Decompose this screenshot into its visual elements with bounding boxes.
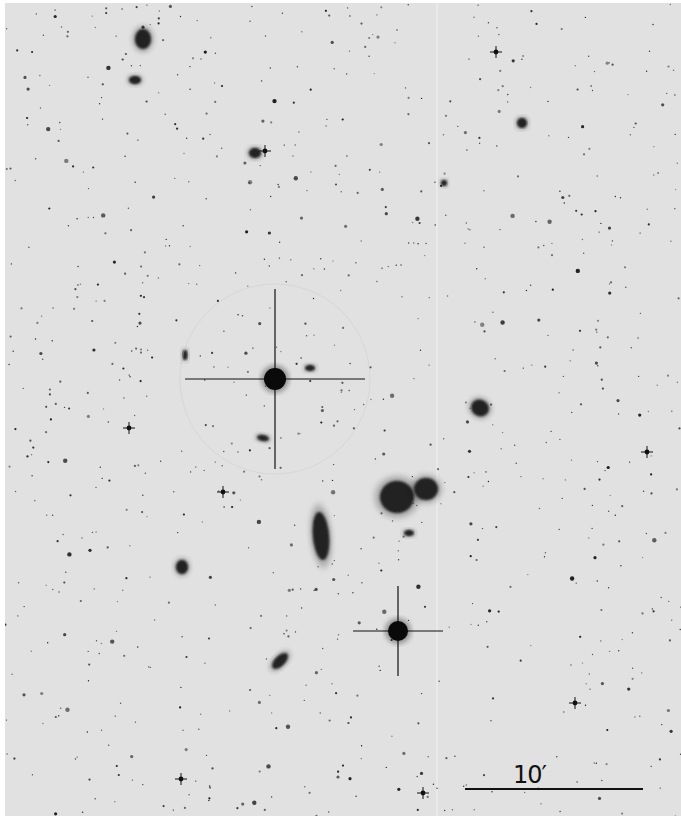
- photographic-plate: 10′: [5, 3, 681, 816]
- scale-bar: [465, 788, 643, 790]
- galaxy-small-4: [440, 179, 449, 188]
- galaxy-lower-left: [264, 645, 296, 677]
- diffraction-star: [569, 697, 581, 709]
- diffraction-star: [490, 46, 502, 58]
- galaxy-left: [173, 557, 191, 578]
- galaxy-top-left: [131, 24, 155, 54]
- bright-star-center: [180, 284, 370, 474]
- galaxy-upper: [246, 146, 264, 161]
- diffraction-star: [217, 486, 229, 498]
- spiral-galaxy: [306, 499, 336, 573]
- diffraction-star: [175, 773, 187, 785]
- galaxy-small-2: [303, 364, 318, 373]
- elliptical-galaxy-right: [462, 391, 497, 425]
- galaxy-top-left-2: [126, 74, 144, 86]
- galaxy-small-3: [181, 348, 189, 363]
- bright-star-lower: [353, 586, 443, 676]
- galaxy-small-5: [402, 529, 417, 538]
- diffraction-star: [123, 422, 135, 434]
- galaxy-small-1: [253, 432, 272, 444]
- star-field: [5, 3, 681, 816]
- galaxy-upper-right: [515, 116, 530, 131]
- galaxy-pair-b: [408, 473, 444, 506]
- scale-bar-label: 10′: [513, 761, 546, 789]
